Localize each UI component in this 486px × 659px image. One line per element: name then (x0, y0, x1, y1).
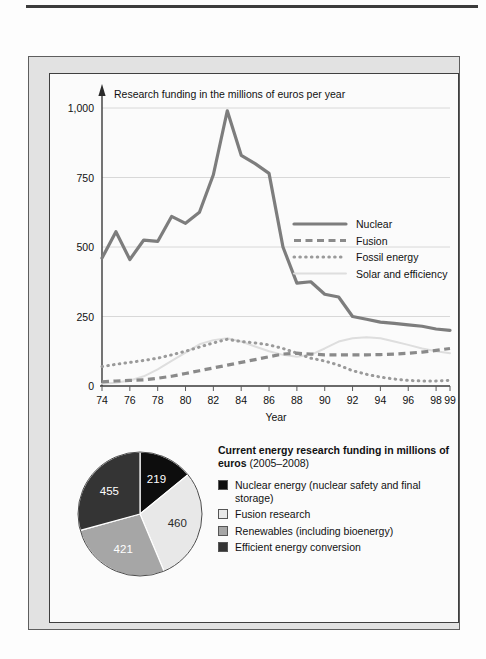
pie-legend-item: Fusion research (218, 508, 450, 521)
x-tick-label: 84 (235, 394, 247, 406)
x-tick-label: 82 (208, 394, 220, 406)
x-tick-label: 88 (291, 394, 303, 406)
x-tick-label: 78 (152, 394, 164, 406)
line-chart: 02505007501,0007476788082848688909294969… (50, 74, 460, 434)
legend-label-fusion: Fusion (356, 235, 388, 247)
pie-slice-value-2: 421 (114, 543, 133, 555)
y-tick-label: 250 (76, 311, 94, 323)
chart-note: Research funding in the millions of euro… (114, 88, 346, 100)
pie-title-range: (2005–2008) (250, 457, 310, 469)
legend-label-fossil-energy: Fossil energy (356, 251, 419, 263)
x-axis-label: Year (265, 411, 287, 423)
x-tick-label: 96 (402, 394, 414, 406)
pie-legend-item: Nuclear energy (nuclear safety and final… (218, 479, 450, 504)
scanned-page: 02505007501,0007476788082848688909294969… (0, 0, 486, 659)
x-tick-label: 80 (180, 394, 192, 406)
pie-legend-label: Efficient energy conversion (235, 541, 361, 554)
pie-slice-value-0: 219 (147, 473, 166, 485)
x-tick-label: 94 (375, 394, 387, 406)
x-tick-label: 74 (96, 394, 108, 406)
pie-title: Current energy research funding in milli… (218, 444, 450, 470)
x-tick-label: 98 (430, 394, 442, 406)
y-tick-label: 500 (76, 241, 94, 253)
series-line-nuclear (102, 111, 450, 331)
page-top-rule (26, 5, 478, 8)
figure-outer-frame: 02505007501,0007476788082848688909294969… (28, 56, 460, 630)
pie-legend-swatch-icon (218, 542, 228, 552)
x-tick-label: 76 (124, 394, 136, 406)
pie-legend-swatch-icon (218, 526, 228, 536)
x-tick-label: 86 (263, 394, 275, 406)
figure-inner-panel: 02505007501,0007476788082848688909294969… (49, 73, 459, 623)
y-tick-label: 0 (88, 380, 94, 392)
y-tick-label: 1,000 (68, 102, 94, 114)
x-tick-label: 99 (444, 394, 456, 406)
line-chart-svg: 02505007501,0007476788082848688909294969… (50, 74, 460, 434)
pie-legend-item: Renewables (including bioenergy) (218, 525, 450, 538)
pie-slice-value-1: 460 (168, 517, 187, 529)
pie-chart-svg: 219460421455 (72, 442, 212, 592)
series-line-solar-and-efficiency (102, 337, 450, 383)
y-tick-label: 750 (76, 172, 94, 184)
pie-chart-block: 219460421455 Current energy research fun… (50, 436, 460, 624)
pie-legend-swatch-icon (218, 509, 228, 519)
x-tick-label: 92 (347, 394, 359, 406)
legend-label-nuclear: Nuclear (356, 218, 393, 230)
pie-legend-label: Nuclear energy (nuclear safety and final… (235, 479, 450, 504)
series-line-fossil-energy (102, 339, 450, 381)
pie-legend-label: Fusion research (235, 508, 310, 521)
pie-legend-item: Efficient energy conversion (218, 541, 450, 554)
legend-label-solar-and-efficiency: Solar and efficiency (356, 268, 448, 280)
x-tick-label: 90 (319, 394, 331, 406)
y-axis-arrow-icon (98, 84, 105, 96)
pie-legend-rows: Nuclear energy (nuclear safety and final… (218, 479, 450, 554)
pie-slice-value-3: 455 (100, 485, 119, 497)
pie-legend: Current energy research funding in milli… (218, 444, 450, 558)
pie-legend-swatch-icon (218, 480, 228, 490)
pie-legend-label: Renewables (including bioenergy) (235, 525, 393, 538)
